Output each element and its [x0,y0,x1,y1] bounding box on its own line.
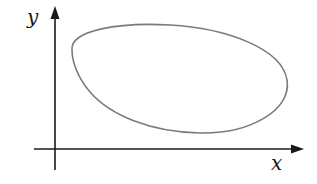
closed-curve [72,24,287,133]
diagram-canvas: y x [0,0,317,184]
x-axis-label: x [271,151,282,175]
diagram-svg: y x [0,0,317,184]
y-axis-label: y [26,5,39,29]
x-axis-arrowhead-icon [291,145,304,154]
y-axis-arrowhead-icon [51,6,60,19]
